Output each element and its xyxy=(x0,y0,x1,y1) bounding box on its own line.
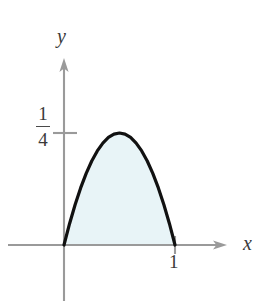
y-axis-label: y xyxy=(57,26,66,46)
fraction-numerator: 1 xyxy=(36,104,50,125)
fraction-one-quarter: 1 4 xyxy=(36,104,50,150)
fraction-denominator: 4 xyxy=(36,129,50,150)
x-tick-label-one: 1 xyxy=(169,252,179,271)
figure-canvas: y x 1 4 1 xyxy=(0,0,257,307)
fraction-bar xyxy=(36,126,50,127)
y-tick-label-one-quarter: 1 4 xyxy=(31,104,55,150)
parabola-plot xyxy=(0,0,257,307)
x-axis-label: x xyxy=(243,233,252,253)
